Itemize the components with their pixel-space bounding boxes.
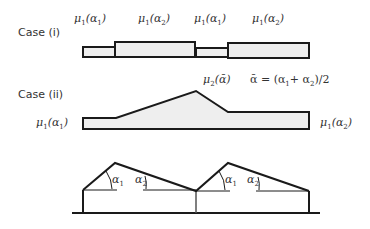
diagram-canvas bbox=[0, 0, 370, 229]
bar-low-1 bbox=[83, 47, 115, 57]
case-ii-profile bbox=[83, 91, 309, 129]
roof-structure bbox=[72, 163, 320, 213]
bar-low-2 bbox=[196, 48, 228, 57]
bar-high-1 bbox=[115, 42, 195, 57]
bar-high-2 bbox=[228, 43, 309, 58]
roof-line bbox=[83, 163, 309, 191]
case-i-bars bbox=[83, 42, 309, 58]
